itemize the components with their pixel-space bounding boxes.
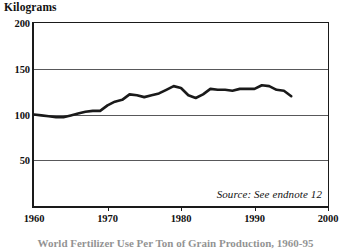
plot-area: 200 150 100 50 1960 1970 1980 1990 2000 … (32, 22, 329, 208)
x-tick-mark-2000 (328, 206, 329, 211)
x-tick-label-1980: 1980 (171, 213, 192, 224)
data-series-line (34, 23, 328, 206)
source-note: Source: See endnote 12 (217, 188, 322, 200)
y-tick-label-150: 150 (15, 63, 30, 74)
y-tick-label-200: 200 (15, 18, 30, 29)
x-tick-label-1990: 1990 (244, 213, 265, 224)
x-tick-label-1970: 1970 (97, 213, 118, 224)
x-tick-mark-1980 (181, 206, 182, 211)
x-tick-label-1960: 1960 (24, 213, 45, 224)
y-tick-label-100: 100 (15, 109, 30, 120)
x-tick-mark-1970 (108, 206, 109, 211)
x-tick-mark-1990 (255, 206, 256, 211)
y-axis-title: Kilograms (4, 0, 57, 14)
figure-caption: World Fertilizer Use Per Ton of Grain Pr… (0, 237, 351, 249)
x-tick-label-2000: 2000 (318, 213, 339, 224)
series-polyline (34, 85, 291, 117)
y-tick-label-50: 50 (20, 155, 30, 166)
